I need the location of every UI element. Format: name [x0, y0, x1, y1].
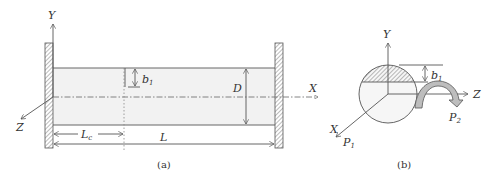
- beam-body: [53, 68, 275, 125]
- beam-diagram: X Y Z b1 D Lc L (a) Y: [0, 0, 491, 179]
- y-axis-label: Y: [48, 9, 57, 22]
- figure-a: X Y Z b1 D Lc L (a): [15, 9, 318, 170]
- y-axis-label-b: Y: [383, 28, 392, 41]
- z-axis-label-b: Z: [472, 88, 481, 101]
- p2-label: P2: [448, 111, 461, 125]
- figure-b: Y Z X P1 b1 P2 (b): [329, 28, 481, 170]
- caption-a: (a): [157, 159, 171, 170]
- d-label: D: [232, 82, 242, 95]
- x-axis-label: X: [308, 82, 318, 95]
- lc-label: Lc: [80, 128, 92, 142]
- p1-label: P1: [342, 136, 355, 150]
- z-axis-label: Z: [15, 121, 24, 134]
- x-axis-label-b: X: [329, 123, 339, 136]
- caption-b: (b): [397, 159, 411, 170]
- p2-moment-arrow: [415, 81, 463, 108]
- left-wall-hatched: [45, 43, 53, 148]
- right-wall-hatched: [275, 43, 283, 148]
- l-label: L: [159, 131, 167, 144]
